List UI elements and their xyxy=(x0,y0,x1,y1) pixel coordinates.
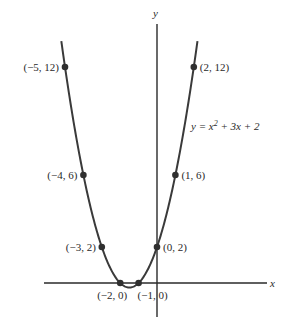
parabola-chart: x y (−5, 12)(−4, 6)(−3, 2)(−2, 0)(−1, 0)… xyxy=(0,0,289,332)
data-point-label: (−5, 12) xyxy=(23,61,59,74)
data-point-marker xyxy=(117,280,124,287)
data-point-label: (−4, 6) xyxy=(47,169,77,182)
data-point-marker xyxy=(172,172,179,179)
data-point-label: (0, 2) xyxy=(163,241,187,254)
data-point-marker xyxy=(80,172,87,179)
data-point-label: (−2, 0) xyxy=(97,289,127,302)
data-point-marker xyxy=(62,64,69,71)
data-point-label: (2, 12) xyxy=(200,61,230,74)
equation-label: y = x2 + 3x + 2 xyxy=(190,119,260,132)
data-points: (−5, 12)(−4, 6)(−3, 2)(−2, 0)(−1, 0)(0, … xyxy=(23,61,229,302)
data-point-label: (−3, 2) xyxy=(66,241,96,254)
data-point-marker xyxy=(154,244,161,251)
y-axis-label: y xyxy=(152,7,158,19)
data-point-marker xyxy=(135,280,142,287)
data-point-label: (−1, 0) xyxy=(138,289,168,302)
x-axis-label: x xyxy=(269,277,275,289)
data-point-marker xyxy=(191,64,198,71)
data-point-marker xyxy=(99,244,106,251)
data-point-label: (1, 6) xyxy=(181,169,205,182)
